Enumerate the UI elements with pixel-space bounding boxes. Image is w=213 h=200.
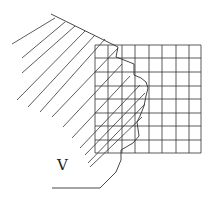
- v-label: V: [56, 156, 69, 174]
- diagram-canvas: V: [0, 0, 213, 200]
- hatch-lines: [12, 18, 145, 167]
- boundary-top: [51, 14, 118, 47]
- grid: [95, 45, 201, 153]
